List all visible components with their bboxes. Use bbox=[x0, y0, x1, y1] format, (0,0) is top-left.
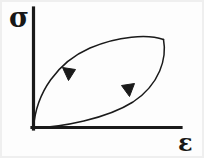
hysteresis-lower-branch bbox=[34, 40, 165, 129]
hysteresis-upper-branch bbox=[34, 37, 164, 128]
arrowhead-upper-icon bbox=[63, 68, 76, 81]
y-axis-label-sigma: σ bbox=[9, 4, 29, 31]
stress-strain-hysteresis-figure: σ ε bbox=[0, 0, 204, 158]
hysteresis-diagram-canvas bbox=[0, 0, 204, 158]
arrowhead-lower-icon bbox=[122, 84, 135, 97]
x-axis-label-epsilon: ε bbox=[178, 131, 193, 155]
